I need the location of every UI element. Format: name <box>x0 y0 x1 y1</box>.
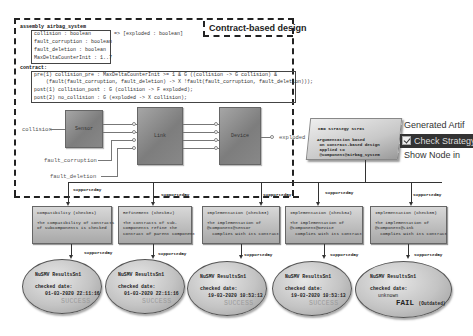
wire-fault-corruption-v <box>111 140 112 161</box>
result-date: 19-03-2020 10:53:13 <box>208 293 263 299</box>
label-supportedby-r3: supportedBy <box>244 252 272 257</box>
arrow-goal-4 <box>318 182 319 204</box>
port-link-in-2 <box>132 130 136 134</box>
label-supportedby-r5: supportedBy <box>414 252 442 257</box>
wire-fault-deletion-h <box>101 176 117 177</box>
menu-item-generated-artifacts[interactable]: Generated Artif <box>404 120 465 130</box>
label-supportedby-r4: supportedBy <box>330 252 358 257</box>
input-max-delta: MaxDeltaCounterInit : 1..7 <box>34 55 112 62</box>
port-device-in-3 <box>214 138 218 142</box>
label-supportedby-g2: supportedBy <box>161 192 189 197</box>
result-note: (Outdated) <box>419 301 446 306</box>
connector-strategy-down <box>365 160 366 170</box>
port-device-in-1 <box>214 122 218 126</box>
checkbox-icon <box>402 136 411 145</box>
port-device-in-2 <box>214 130 218 134</box>
label-supportedby-r2: supportedBy <box>158 251 186 256</box>
label-supportedby-g5: supportedBy <box>413 192 441 197</box>
port-exploded-label: exploded <box>279 134 305 141</box>
result-status-fail: FAIL (Outdated) <box>396 300 446 307</box>
goal-compatibility[interactable]: Compatibility (Check01) The compatibilit… <box>32 206 112 244</box>
arrowhead-result-5 <box>406 255 410 259</box>
goal-title: Refinement (Check02) <box>123 210 187 215</box>
port-collision-label: collision <box>22 126 52 133</box>
contract-post1: post(1) collision_post : G (collision ->… <box>34 87 193 94</box>
arrowhead-result-3 <box>239 255 243 259</box>
arrow-goal-1 <box>68 182 69 204</box>
wire-fault-deletion-h2 <box>117 148 133 149</box>
result-date-label: checked date: <box>285 286 322 292</box>
contract-post2: post(2) no_collision : G (exploded -> X … <box>34 95 187 102</box>
goal-text: The implementation of @component@Device … <box>290 220 358 236</box>
port-fault-deletion-label: fault_deletion <box>50 173 96 180</box>
result-title: NuSMV ResultsSn1 <box>118 272 164 278</box>
goal-title: Implementation (Check03) <box>207 210 275 215</box>
result-date: 01-03-2020 22:11:16 <box>124 291 179 297</box>
result-date-label: checked date: <box>370 286 407 292</box>
result-title: NuSMV ResultsSn1 <box>285 274 331 280</box>
result-date-label: checked date: <box>200 286 237 292</box>
arrow-goal-2 <box>153 182 154 204</box>
contract-pre1-cont: (fault(fault_corruption, fault_deletion)… <box>34 79 313 86</box>
result-title: NuSMV ResultsSn1 <box>370 274 416 280</box>
goal-refinement[interactable]: Refinement (Check02) The contracts of su… <box>118 206 192 244</box>
result-status: SUCCESS <box>142 299 171 305</box>
connector-strategy-bus <box>365 170 366 182</box>
goal-text: The implementation of @component@Sensor … <box>207 220 275 236</box>
goal-title: Implementation (Check04) <box>290 210 358 215</box>
block-link-label: Link <box>154 133 166 139</box>
result-date-label: checked date: <box>35 284 72 290</box>
arrowhead-result-4 <box>322 255 326 259</box>
result-date-label: checked date: <box>118 284 155 290</box>
port-fault-corruption-label: fault_corruption <box>44 157 97 164</box>
label-supportedby-g1: supportedBy <box>73 187 101 192</box>
result-solution-3[interactable]: NuSMV ResultsSn1 checked date: 19-03-202… <box>187 261 267 316</box>
result-status: SUCCESS <box>224 301 253 307</box>
goal-title: Implementation (Check05) <box>375 210 442 215</box>
result-status: FAIL <box>396 299 414 307</box>
block-link[interactable]: Link <box>137 107 183 165</box>
label-supportedby-g3: supportedBy <box>263 192 291 197</box>
goal-implementation-sensor[interactable]: Implementation (Check03) The implementat… <box>202 206 280 244</box>
result-status: SUCCESS <box>61 299 90 305</box>
input-fault-deletion: fault_deletion : boolean <box>34 47 106 54</box>
menu-item-check-strategy-label: Check Strategy <box>414 136 473 146</box>
arrowhead-result-1 <box>69 255 73 259</box>
result-solution-1[interactable]: NuSMV ResultsSn1 checked date: 01-03-202… <box>22 259 102 314</box>
goal-title: Compatibility (Check01) <box>37 210 107 215</box>
contract-region-border-bottom <box>14 196 299 198</box>
result-title: NuSMV ResultsSn1 <box>35 272 81 278</box>
result-date: 19-03-2020 10:53:13 <box>291 293 346 299</box>
arrow-goal-3 <box>261 182 262 204</box>
port-device-in-4 <box>214 146 218 150</box>
contract-pre1: pre(1) collision_pre : MaxDeltaCounterIn… <box>34 72 277 79</box>
strategy-text: Argumentation based on contract-based de… <box>317 138 380 158</box>
wire-fault-deletion-v <box>117 148 118 177</box>
port-link-in-1 <box>132 122 136 126</box>
goal-text: The contracts of sub- components refine … <box>123 220 187 236</box>
goal-text: The compatibility of contracts of subcom… <box>37 220 107 230</box>
block-device-label: Device <box>231 133 249 139</box>
wire-fault-corruption-h2 <box>111 140 133 141</box>
wire-fault-corruption-h <box>98 160 111 161</box>
menu-item-check-strategy[interactable]: Check Strategy <box>400 134 473 148</box>
result-solution-2[interactable]: NuSMV ResultsSn1 checked date: 01-03-202… <box>105 259 185 314</box>
result-date: 01-03-2020 22:11:16 <box>45 291 100 297</box>
menu-item-show-node[interactable]: Show Node in <box>404 150 460 160</box>
block-sensor[interactable]: Sensor <box>65 110 103 148</box>
label-supportedby-r1: supportedBy <box>84 250 112 255</box>
label-supportedby-g4: supportedBy <box>325 190 353 195</box>
goal-implementation-link[interactable]: Implementation (Check05) The implementat… <box>370 206 447 244</box>
result-solution-5[interactable]: NuSMV ResultsSn1 checked date: unknown F… <box>355 261 452 318</box>
input-fault-corruption: fault_corruption : boolean <box>34 39 112 46</box>
block-device[interactable]: Device <box>219 107 261 165</box>
input-collision: collision : boolean <box>34 31 91 38</box>
outputs-signature: => [exploded : boolean] <box>114 31 183 38</box>
result-solution-4[interactable]: NuSMV ResultsSn1 checked date: 19-03-202… <box>272 261 352 316</box>
block-sensor-label: Sensor <box>75 126 93 132</box>
goal-text: The implementation of @component@Link co… <box>375 220 442 236</box>
wire-collision <box>50 129 65 130</box>
goal-implementation-device[interactable]: Implementation (Check04) The implementat… <box>285 206 363 244</box>
result-status: SUCCESS <box>309 301 338 307</box>
port-exploded <box>270 135 274 139</box>
